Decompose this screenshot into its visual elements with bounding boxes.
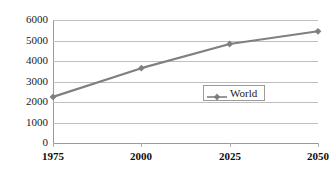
data-point-marker — [50, 93, 57, 100]
legend-series-swatch-icon — [207, 88, 227, 98]
data-point-marker — [226, 41, 233, 48]
legend-item-label: World — [230, 88, 257, 99]
series-line-world — [53, 31, 318, 97]
legend: World — [203, 85, 265, 101]
data-point-marker — [138, 65, 145, 72]
data-point-marker — [315, 28, 322, 35]
series-markers-world — [50, 28, 322, 100]
line-chart: 0100020003000400050006000 19752000202520… — [0, 0, 330, 177]
series-layer — [0, 0, 330, 177]
